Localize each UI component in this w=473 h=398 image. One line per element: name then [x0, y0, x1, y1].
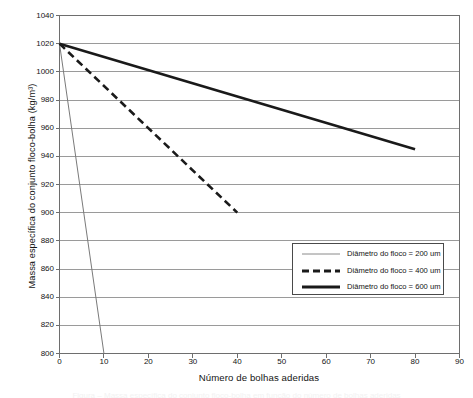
series-line-2: [60, 44, 416, 150]
x-tick-label: 90: [445, 358, 473, 366]
legend-label-200um: Diâmetro do floco = 200 um: [347, 249, 441, 258]
x-tick-label: 20: [133, 358, 163, 366]
x-tick-label: 0: [45, 358, 75, 366]
series-lines: [60, 44, 416, 354]
x-tick-label: 70: [356, 358, 386, 366]
legend-swatch-400um-icon: [301, 264, 341, 278]
x-tick-label: 10: [89, 358, 119, 366]
series-line-0: [60, 44, 104, 354]
legend-item-400um: Diâmetro do floco = 400 um: [293, 262, 445, 279]
x-tick-label: 50: [267, 358, 297, 366]
legend: Diâmetro do floco = 200 um Diâmetro do f…: [292, 243, 444, 295]
gridlines: [60, 16, 460, 354]
legend-item-600um: Diâmetro do floco = 600 um: [293, 278, 445, 295]
x-tick-label: 40: [222, 358, 252, 366]
x-tick-label: 30: [178, 358, 208, 366]
legend-swatch-200um-icon: [301, 247, 341, 261]
axis-ticks: [56, 16, 460, 358]
chart-figure: Massa específica do conjunto floco-bolha…: [0, 0, 473, 398]
legend-label-600um: Diâmetro do floco = 600 um: [347, 282, 441, 291]
legend-item-200um: Diâmetro do floco = 200 um: [293, 245, 445, 262]
x-axis-title: Número de bolhas aderidas: [59, 372, 459, 383]
caption-sliver: Figura – Massa específica do conjunto fl…: [0, 391, 473, 398]
plot-area: [0, 0, 473, 398]
x-tick-label: 80: [400, 358, 430, 366]
legend-swatch-600um-icon: [301, 280, 341, 294]
x-tick-label: 60: [311, 358, 341, 366]
legend-label-400um: Diâmetro do floco = 400 um: [347, 266, 441, 275]
